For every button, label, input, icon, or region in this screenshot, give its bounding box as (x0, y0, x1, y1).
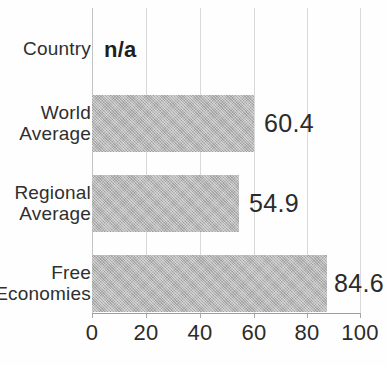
value-label-world-average: 60.4 (264, 111, 314, 136)
x-tick-label-40: 40 (187, 320, 212, 346)
bar-chart: Country n/a World Average 60.4 Regional … (0, 0, 389, 366)
x-axis-line (92, 313, 361, 314)
x-tick-label-60: 60 (241, 320, 266, 346)
x-tick-label-80: 80 (294, 320, 319, 346)
x-tick-mark-20 (146, 313, 147, 318)
bar-free-economies (92, 255, 327, 312)
x-tick-mark-100 (360, 313, 361, 318)
category-label-line-1: World (0, 102, 91, 123)
category-label-line-2: Average (0, 203, 91, 224)
chart-row-free-economies: Free Economies 84.6 (0, 255, 389, 312)
x-tick-label-0: 0 (86, 320, 99, 346)
bar-world-average (92, 95, 254, 152)
country-row-value: n/a (104, 36, 136, 63)
x-tick-mark-0 (92, 313, 93, 318)
chart-row-regional-average: Regional Average 54.9 (0, 175, 389, 232)
chart-row-world-average: World Average 60.4 (0, 95, 389, 152)
x-tick-mark-40 (200, 313, 201, 318)
category-label-line-2: Average (0, 123, 91, 144)
bar-regional-average (92, 175, 239, 232)
value-label-free-economies: 84.6 (334, 271, 384, 296)
category-label-line-2: Economies (0, 283, 91, 304)
x-tick-mark-80 (307, 313, 308, 318)
x-tick-label-100: 100 (341, 320, 379, 346)
category-label-line-1: Free (0, 262, 91, 283)
category-label-world-average: World Average (0, 102, 91, 144)
x-tick-mark-60 (254, 313, 255, 318)
country-row-label: Country (0, 36, 91, 62)
category-label-regional-average: Regional Average (0, 182, 91, 224)
x-tick-label-20: 20 (133, 320, 158, 346)
value-label-regional-average: 54.9 (249, 191, 299, 216)
category-label-line-1: Regional (0, 182, 91, 203)
category-label-free-economies: Free Economies (0, 262, 91, 304)
country-row: Country n/a (0, 36, 389, 64)
